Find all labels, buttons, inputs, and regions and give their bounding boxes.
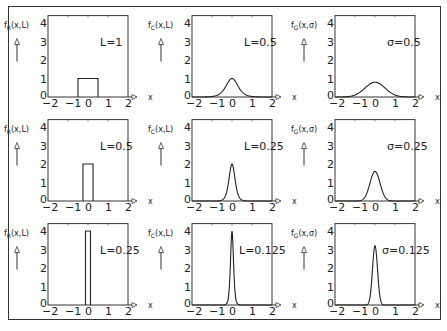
x-tick-label: 0 — [229, 201, 236, 214]
x-axis-arrow-icon — [276, 303, 281, 308]
y-tick-label: 0 — [327, 297, 334, 310]
x-tick-label: −1 — [65, 305, 81, 318]
y-axis-label: fR(x,L) — [4, 229, 29, 239]
y-tick-label: 4 — [40, 225, 47, 238]
y-tick-label: 0 — [184, 193, 191, 206]
curve-rect — [86, 231, 91, 305]
param-annotation: L=0.25 — [244, 140, 284, 153]
y-tick-label: 3 — [184, 140, 191, 153]
x-tick-label: 2 — [269, 97, 276, 110]
x-tick-label: 1 — [249, 97, 256, 110]
x-tick-label: 0 — [372, 97, 379, 110]
x-tick-label: −1 — [352, 305, 368, 318]
y-tick-label: 4 — [327, 121, 334, 134]
param-annotation: L=1 — [100, 36, 122, 49]
y-tick-label: 3 — [327, 140, 334, 153]
x-tick-label: 1 — [105, 305, 112, 318]
y-tick-label: 0 — [327, 193, 334, 206]
x-axis-arrow-icon — [419, 199, 424, 204]
x-tick-label: 2 — [412, 201, 419, 214]
x-tick-label: 2 — [125, 305, 132, 318]
x-tick-label: 1 — [392, 201, 399, 214]
y-axis-arrow-icon — [302, 247, 307, 253]
y-tick-label: 1 — [40, 177, 47, 190]
x-axis-label: x — [292, 301, 297, 310]
x-axis-label: x — [292, 197, 297, 206]
y-axis-arrow-icon — [15, 39, 20, 45]
x-axis-arrow-icon — [132, 303, 137, 308]
x-tick-label: 2 — [269, 305, 276, 318]
curve-rect — [78, 79, 98, 98]
param-annotation: σ=0.5 — [387, 36, 421, 49]
y-axis-label: fG(x,σ) — [291, 229, 317, 239]
y-tick-label: 4 — [327, 225, 334, 238]
plot-box — [48, 224, 128, 305]
x-tick-label: 0 — [229, 305, 236, 318]
y-tick-label: 3 — [40, 140, 47, 153]
x-axis-label: x — [148, 93, 153, 102]
y-tick-label: 4 — [184, 121, 191, 134]
x-axis-label: x — [148, 301, 153, 310]
param-annotation: L=0.25 — [100, 244, 140, 257]
x-tick-label: 2 — [269, 201, 276, 214]
y-axis-label: fR(x,L) — [4, 21, 29, 31]
y-tick-label: 4 — [184, 17, 191, 30]
x-tick-label: 2 — [412, 97, 419, 110]
y-axis-arrow-icon — [159, 39, 164, 45]
y-tick-label: 0 — [184, 89, 191, 102]
y-tick-label: 1 — [184, 281, 191, 294]
x-tick-label: 0 — [85, 97, 92, 110]
y-tick-label: 1 — [184, 73, 191, 86]
x-tick-label: −1 — [65, 201, 81, 214]
y-tick-label: 2 — [327, 158, 334, 171]
x-tick-label: −1 — [209, 97, 225, 110]
plot-box — [335, 224, 415, 305]
y-tick-label: 3 — [184, 244, 191, 257]
plot-box — [335, 120, 415, 201]
y-tick-label: 4 — [327, 17, 334, 30]
x-tick-label: −1 — [209, 305, 225, 318]
x-axis-arrow-icon — [132, 199, 137, 204]
param-annotation: σ=0.25 — [387, 140, 428, 153]
y-tick-label: 2 — [327, 54, 334, 67]
plot-box — [335, 16, 415, 97]
y-axis-label: fC(x,L) — [148, 21, 173, 31]
x-tick-label: 1 — [392, 97, 399, 110]
x-tick-label: 1 — [105, 97, 112, 110]
x-tick-label: 2 — [125, 97, 132, 110]
x-axis-label: x — [435, 93, 440, 102]
x-tick-label: 0 — [372, 201, 379, 214]
y-axis-arrow-icon — [159, 143, 164, 149]
y-axis-label: fC(x,L) — [148, 229, 173, 239]
y-tick-label: 3 — [184, 36, 191, 49]
curve-gauss — [335, 171, 415, 201]
y-tick-label: 1 — [327, 281, 334, 294]
y-tick-label: 2 — [40, 158, 47, 171]
curve-rect — [83, 164, 93, 201]
x-tick-label: −1 — [209, 201, 225, 214]
x-axis-label: x — [435, 197, 440, 206]
y-tick-label: 3 — [40, 244, 47, 257]
curve-lorentz — [192, 164, 272, 201]
y-axis-label: fG(x,σ) — [291, 125, 317, 135]
x-tick-label: 2 — [412, 305, 419, 318]
y-tick-label: 2 — [327, 262, 334, 275]
x-tick-label: 1 — [249, 201, 256, 214]
x-axis-label: x — [148, 197, 153, 206]
x-tick-label: 1 — [392, 305, 399, 318]
y-tick-label: 2 — [184, 262, 191, 275]
x-axis-arrow-icon — [276, 199, 281, 204]
y-tick-label: 0 — [40, 193, 47, 206]
y-tick-label: 3 — [327, 244, 334, 257]
x-tick-label: −1 — [352, 97, 368, 110]
x-axis-arrow-icon — [419, 95, 424, 100]
x-tick-label: 2 — [125, 201, 132, 214]
y-axis-label: fR(x,L) — [4, 125, 29, 135]
y-tick-label: 0 — [40, 297, 47, 310]
y-tick-label: 1 — [184, 177, 191, 190]
y-tick-label: 1 — [327, 177, 334, 190]
y-tick-label: 0 — [40, 89, 47, 102]
y-tick-label: 1 — [40, 73, 47, 86]
param-annotation: L=0.125 — [239, 244, 286, 257]
y-tick-label: 4 — [40, 17, 47, 30]
